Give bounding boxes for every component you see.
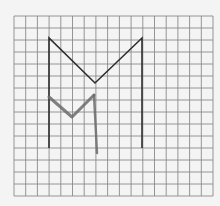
grid-paper-figure	[0, 0, 220, 206]
small-letter-m-right-leg	[94, 95, 97, 153]
small-letter-m-diagonal	[49, 95, 94, 117]
grid-lines	[14, 16, 213, 196]
grid-drawing	[0, 0, 220, 206]
